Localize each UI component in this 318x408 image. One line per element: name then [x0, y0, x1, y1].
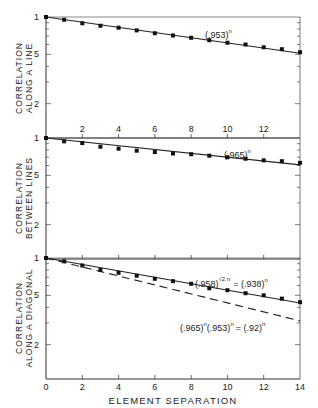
data-point — [280, 47, 284, 51]
panel-2-labels: CORRELATION BETWEEN LINES (.965)n — [14, 148, 251, 239]
x-tick-label: 14 — [295, 382, 305, 392]
data-point — [189, 36, 193, 40]
data-point — [298, 161, 302, 165]
x-axis-label: ELEMENT SEPARATION — [109, 395, 238, 406]
data-point — [44, 15, 48, 19]
data-point — [153, 277, 157, 281]
data-point — [98, 24, 102, 28]
data-point — [244, 291, 248, 295]
data-point — [207, 154, 211, 158]
data-point — [225, 288, 229, 292]
panel-3-fit-label-dashed: (.965)n(.953)n= (.92)n — [180, 321, 265, 333]
data-point — [135, 28, 139, 32]
panel-2: 152 — [34, 133, 302, 259]
data-point — [262, 45, 266, 49]
data-point — [244, 43, 248, 47]
data-point — [62, 18, 66, 22]
data-point — [171, 33, 175, 37]
data-point — [171, 279, 175, 283]
panel-1-ylabel-line1: CORRELATION — [14, 42, 24, 114]
panel-2-fit-label: (.965)n — [224, 148, 251, 160]
data-point — [98, 145, 102, 149]
panel-3-ylabel-line1: CORRELATION — [14, 282, 24, 354]
data-point — [189, 152, 193, 156]
y-tick-label: 2 — [34, 99, 39, 109]
x-tick-label: 4 — [116, 124, 121, 134]
data-point — [189, 282, 193, 286]
data-point — [135, 149, 139, 153]
x-tick-label: 2 — [80, 124, 85, 134]
data-point — [262, 293, 266, 297]
x-tick-label: 8 — [189, 124, 194, 134]
data-point — [80, 141, 84, 145]
panel-2-ylabel-line2: BETWEEN LINES — [24, 157, 34, 239]
panel-1-labels: CORRELATION ALONG A LINE (.953)n — [14, 28, 232, 114]
y-tick-label: 1 — [34, 12, 39, 22]
data-point — [153, 150, 157, 154]
panel-1-ylabel-line2: ALONG A LINE — [24, 43, 34, 113]
data-point — [117, 26, 121, 30]
data-point — [44, 136, 48, 140]
x-tick-label: 12 — [259, 124, 269, 134]
data-point — [171, 151, 175, 155]
data-point — [62, 259, 66, 263]
data-point — [262, 158, 266, 162]
x-tick-label: 4 — [116, 382, 121, 392]
panel-3-fit-label-solid: (.958)√2 n= (.938)n — [195, 276, 268, 289]
x-tick-label: 6 — [152, 124, 157, 134]
x-tick-label: 0 — [43, 382, 48, 392]
data-point — [280, 297, 284, 301]
y-tick-label: 5 — [34, 49, 39, 59]
data-point — [80, 21, 84, 25]
x-tick-label: 8 — [189, 382, 194, 392]
y-tick-label: 2 — [34, 340, 39, 350]
x-tick-label: 12 — [259, 382, 269, 392]
panel-1: 15224681012 — [34, 12, 302, 138]
data-point — [225, 41, 229, 45]
data-point — [298, 50, 302, 54]
x-tick-label: 2 — [80, 382, 85, 392]
y-tick-label: 5 — [34, 290, 39, 300]
data-point — [80, 263, 84, 267]
panel-1-fit-label: (.953)n — [205, 28, 232, 40]
data-point — [44, 256, 48, 260]
panel-3-ylabel-line2: ALONG A DIAGONAL — [24, 268, 34, 367]
data-point — [117, 271, 121, 275]
data-point — [135, 274, 139, 278]
y-tick-label: 5 — [34, 170, 39, 180]
data-point — [153, 31, 157, 35]
y-tick-label: 1 — [34, 133, 39, 143]
data-point — [298, 300, 302, 304]
x-tick-label: 6 — [152, 382, 157, 392]
data-point — [62, 139, 66, 143]
y-tick-label: 1 — [34, 253, 39, 263]
panel-2-ylabel-line1: CORRELATION — [14, 162, 24, 234]
x-tick-label: 10 — [222, 382, 232, 392]
y-tick-label: 2 — [34, 220, 39, 230]
data-point — [280, 159, 284, 163]
x-tick-label: 10 — [222, 124, 232, 134]
data-point — [117, 147, 121, 151]
data-point — [98, 268, 102, 272]
figure: 1522468101215215202468101214 CORRELATION… — [0, 0, 318, 408]
